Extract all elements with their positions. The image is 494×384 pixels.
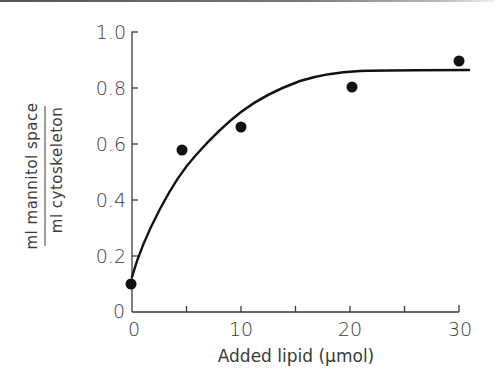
chart: 1.0 0.8 0.6 0.4 0.2 0 0 10 20 30 Added l… [0,0,494,384]
x-tick-label: 20 [338,318,362,340]
x-tick-label: 30 [448,318,472,340]
data-point [236,122,247,133]
data-point [347,82,358,93]
fitted-curve [132,70,469,277]
y-tick-labels: 1.0 0.8 0.6 0.4 0.2 0 [96,21,126,322]
y-axis-title-numerator: ml mannitol space [23,102,41,249]
y-tick-label: 0.2 [96,245,126,267]
y-tick-label: 0 [113,300,125,322]
y-axis-title: ml mannitol space ml cytoskeleton [23,102,66,249]
data-point [454,56,465,67]
y-tick-label: 1.0 [96,21,126,43]
y-tick-label: 0.8 [96,77,126,99]
y-axis-title-denominator: ml cytoskeleton [48,107,66,233]
x-tick-labels: 0 10 20 30 [128,318,472,340]
y-tick-label: 0.4 [96,189,126,211]
y-tick-label: 0.6 [96,133,126,155]
x-axis-title: Added lipid (µmol) [218,346,375,366]
data-point [177,145,188,156]
data-points [126,56,465,290]
x-tick-label: 10 [229,318,253,340]
x-tick-label: 0 [128,318,140,340]
data-point [126,279,137,290]
